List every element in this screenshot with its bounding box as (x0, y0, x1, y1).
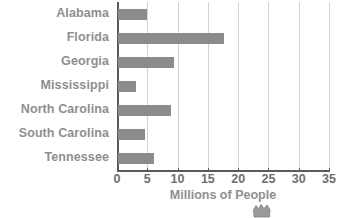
gridline-30 (299, 2, 300, 170)
y-axis-label-north-carolina: North Carolina (0, 103, 109, 116)
y-axis-label-south-carolina: South Carolina (0, 127, 109, 140)
x-tick-label-10: 10 (171, 172, 185, 186)
bar-georgia (118, 57, 174, 68)
bar-tennessee (118, 153, 154, 164)
bar-mississippi (118, 81, 136, 92)
x-axis-title: Millions of People (117, 188, 329, 202)
x-tick-label-25: 25 (261, 172, 275, 186)
x-axis-ticks: 05101520253035 (117, 172, 339, 188)
x-tick-label-5: 5 (144, 172, 151, 186)
y-axis-label-tennessee: Tennessee (0, 151, 109, 164)
gridline-10 (178, 2, 179, 170)
gridline-20 (238, 2, 239, 170)
y-axis-label-alabama: Alabama (0, 7, 109, 20)
bar-chart: Alabama Florida Georgia Mississippi Nort… (0, 0, 342, 218)
bar-north-carolina (118, 105, 171, 116)
scan-artifact-blob (252, 203, 272, 218)
x-tick-label-15: 15 (201, 172, 215, 186)
gridline-25 (268, 2, 269, 170)
bar-alabama (118, 9, 147, 20)
y-axis-label-georgia: Georgia (0, 55, 109, 68)
y-axis-category-labels: Alabama Florida Georgia Mississippi Nort… (0, 0, 113, 170)
plot-area (117, 2, 329, 170)
gridline-5 (147, 2, 148, 170)
bar-south-carolina (118, 129, 145, 140)
y-axis-label-florida: Florida (0, 31, 109, 44)
x-tick-label-20: 20 (231, 172, 245, 186)
x-tick-label-35: 35 (322, 172, 336, 186)
x-tick-label-0: 0 (114, 172, 121, 186)
bar-florida (118, 33, 224, 44)
gridline-35 (329, 2, 330, 170)
gridline-15 (208, 2, 209, 170)
x-tick-label-30: 30 (292, 172, 306, 186)
y-axis-label-mississippi: Mississippi (0, 79, 109, 92)
